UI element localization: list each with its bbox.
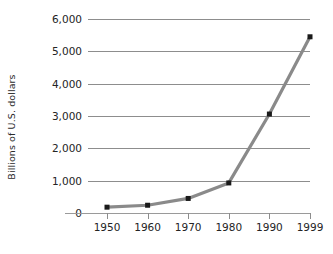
data-point-marker	[308, 34, 313, 39]
x-tick-label: 1999	[297, 221, 324, 233]
y-axis-tick-labels: 01,0002,0003,0004,0005,0006,000	[22, 19, 82, 213]
x-tick	[229, 213, 230, 219]
plot-area	[88, 19, 310, 213]
data-point-marker	[145, 203, 150, 208]
series-line	[107, 37, 310, 207]
line-chart: Billions of U.S. dollars 01,0002,0003,00…	[0, 0, 333, 254]
x-tick	[310, 213, 311, 219]
x-tick-label: 1960	[134, 221, 161, 233]
x-tick	[188, 213, 189, 219]
series-markers	[105, 34, 313, 209]
x-tick-label: 1990	[256, 221, 283, 233]
data-point-marker	[267, 112, 272, 117]
y-tick-label: 1,000	[30, 175, 82, 187]
x-tick	[269, 213, 270, 219]
x-tick	[107, 213, 108, 219]
y-tick-label: 3,000	[30, 110, 82, 122]
data-point-marker	[105, 205, 110, 210]
y-tick-label: 4,000	[30, 78, 82, 90]
y-tick-label: 5,000	[30, 45, 82, 57]
y-tick-label: 2,000	[30, 142, 82, 154]
data-point-marker	[226, 180, 231, 185]
x-tick-label: 1950	[94, 221, 121, 233]
series-layer	[88, 19, 310, 213]
y-tick-label: 6,000	[30, 13, 82, 25]
x-tick-label: 1970	[175, 221, 202, 233]
x-axis: 195019601970198019901999	[88, 213, 310, 253]
x-tick	[148, 213, 149, 219]
data-point-marker	[186, 196, 191, 201]
y-axis-title: Billions of U.S. dollars	[0, 0, 22, 254]
x-tick-label: 1980	[215, 221, 242, 233]
